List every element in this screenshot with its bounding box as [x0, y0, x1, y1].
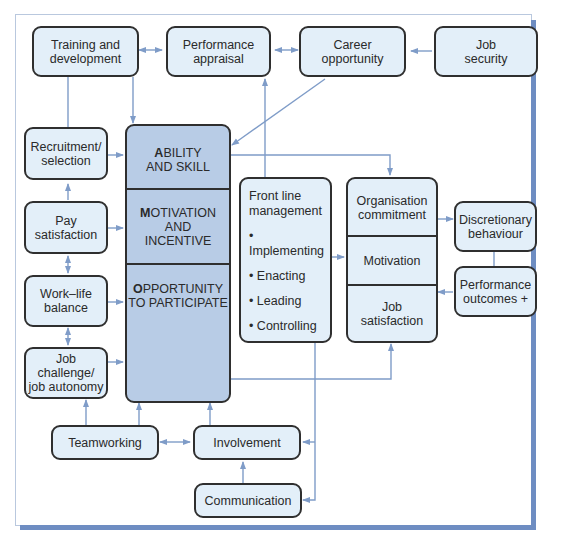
motivation-section: MOTIVATION AND INCENTIVE: [127, 206, 229, 248]
opportunity-initial: O: [133, 282, 143, 296]
job-security-box: Job security: [434, 26, 538, 77]
opportunity-section: OPPORTUNITY TO PARTICIPATE: [127, 282, 229, 310]
amo-divider-1: [127, 188, 229, 190]
motivation-outcome-section: Motivation: [348, 237, 436, 285]
flm-item-controlling: • Controlling: [249, 319, 322, 334]
work-life-balance-box: Work–life balance: [24, 275, 108, 327]
communication-label: Communication: [205, 494, 292, 508]
performance-appraisal-label: Performance appraisal: [183, 38, 255, 66]
recruitment-selection-label: Recruitment/ selection: [31, 140, 102, 168]
recruitment-selection-box: Recruitment/ selection: [24, 127, 108, 180]
flm-item-leading: • Leading: [249, 294, 322, 309]
flm-item-enacting: • Enacting: [249, 269, 322, 284]
job-challenge-autonomy-box: Job challenge/ job autonomy: [24, 347, 108, 399]
job-challenge-autonomy-label: Job challenge/ job autonomy: [28, 352, 104, 394]
performance-appraisal-box: Performance appraisal: [166, 26, 271, 77]
teamworking-box: Teamworking: [51, 425, 159, 460]
flm-item-implementing: • Implementing: [249, 229, 322, 259]
training-development-box: Training and development: [32, 26, 139, 77]
organisation-commitment-label: Organisation commitment: [357, 194, 428, 222]
career-opportunity-box: Career opportunity: [299, 26, 406, 77]
motivation-label: OTIVATION AND INCENTIVE: [145, 206, 216, 248]
performance-outcomes-label: Performance outcomes +: [460, 278, 532, 306]
frame-shadow-bottom: [20, 525, 536, 530]
job-security-label: Job security: [464, 38, 507, 66]
teamworking-label: Teamworking: [68, 436, 142, 450]
performance-outcomes-box: Performance outcomes +: [454, 266, 537, 317]
communication-box: Communication: [194, 483, 302, 518]
pay-satisfaction-label: Pay satisfaction: [35, 214, 98, 242]
career-opportunity-label: Career opportunity: [322, 38, 384, 66]
front-line-management-box: Front line management • Implementing • E…: [239, 177, 332, 343]
motivation-initial: M: [140, 206, 150, 220]
opportunity-label: PPORTUNITY TO PARTICIPATE: [128, 282, 228, 310]
amo-box: ABILITY AND SKILL MOTIVATION AND INCENTI…: [125, 124, 231, 403]
involvement-box: Involvement: [193, 425, 301, 460]
work-life-balance-label: Work–life balance: [40, 287, 92, 315]
job-satisfaction-section: Job satisfaction: [348, 286, 436, 341]
training-development-label: Training and development: [50, 38, 122, 66]
motivation-outcome-label: Motivation: [364, 254, 421, 268]
pay-satisfaction-box: Pay satisfaction: [24, 201, 108, 254]
involvement-label: Involvement: [213, 436, 280, 450]
ability-section: ABILITY AND SKILL: [127, 146, 229, 174]
discretionary-behaviour-label: Discretionary behaviour: [459, 213, 532, 241]
discretionary-behaviour-box: Discretionary behaviour: [454, 201, 537, 252]
organisation-commitment-section: Organisation commitment: [348, 179, 436, 236]
employee-outcomes-box: Organisation commitment Motivation Job s…: [346, 177, 438, 343]
amo-divider-2: [127, 263, 229, 265]
job-satisfaction-label: Job satisfaction: [361, 300, 424, 328]
front-line-management-title: Front line management: [249, 189, 322, 219]
